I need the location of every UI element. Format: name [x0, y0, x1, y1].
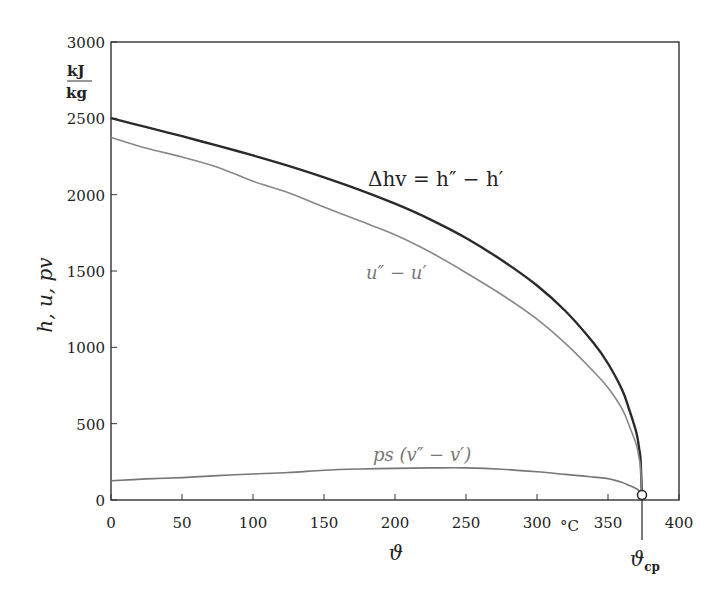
- chart: 050010001500200025003000 050100150200250…: [0, 0, 722, 595]
- annotation-delta-u: u″ − u′: [366, 262, 427, 283]
- y-axis-title: h, u, pv: [33, 257, 57, 333]
- y-tick-label: 0: [95, 492, 105, 510]
- x-tick-label: 0: [106, 514, 116, 532]
- critical-point-marker: [638, 491, 647, 500]
- p-delta-v-curve: [111, 468, 642, 500]
- y-axis-ticks: 050010001500200025003000: [67, 34, 117, 510]
- x-tick-label: 200: [381, 514, 410, 532]
- x-tick-label: 300: [523, 514, 552, 532]
- y-unit-denominator: kg: [66, 84, 87, 102]
- x-tick-label: 350: [594, 514, 623, 532]
- annotation-delta-h: Δhv = h″ − h′: [368, 167, 504, 191]
- x-tick-label: 100: [239, 514, 268, 532]
- y-unit-numerator: kJ: [67, 62, 85, 80]
- x-tick-label: 250: [452, 514, 481, 532]
- y-tick-label: 2500: [67, 110, 105, 128]
- x-tick-label: 50: [172, 514, 191, 532]
- critical-temperature-label: ϑcp: [630, 547, 660, 574]
- y-tick-label: 2000: [67, 187, 105, 205]
- annotation-p-delta-v: ps (v″ − v′): [373, 444, 471, 465]
- y-tick-label: 1500: [67, 263, 105, 281]
- y-tick-label: 500: [76, 416, 105, 434]
- x-axis-title: ϑ: [389, 541, 403, 565]
- x-tick-label: 400: [665, 514, 694, 532]
- x-tick-label: 150: [310, 514, 339, 532]
- y-tick-label: 1000: [67, 339, 105, 357]
- x-unit: °C: [560, 517, 579, 535]
- y-tick-label: 3000: [67, 34, 105, 52]
